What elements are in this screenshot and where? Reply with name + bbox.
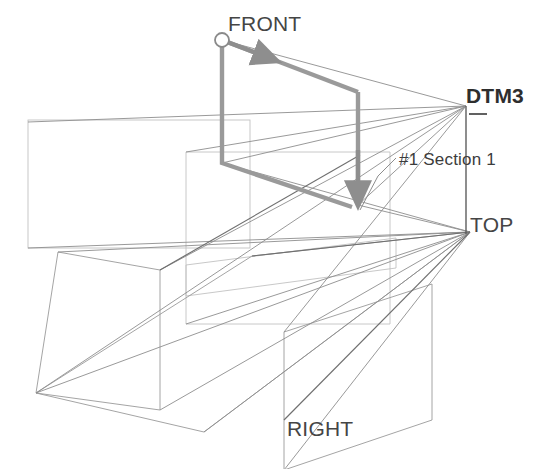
label-front: FRONT <box>228 12 301 36</box>
rays-to-top <box>28 163 470 469</box>
edge-top-to-right-corner <box>284 232 470 420</box>
ray-top-c <box>58 232 470 252</box>
arrow-direction-right <box>222 40 272 59</box>
label-section-callout: #1 Section 1 <box>399 150 496 170</box>
ray-dtm3-a <box>222 40 466 106</box>
front-picture-plane <box>28 120 250 248</box>
faint-construction-planes <box>28 120 396 324</box>
edge-left-diagonal <box>160 155 360 270</box>
rays-to-datum <box>28 40 466 393</box>
ghost-band-plane <box>186 238 396 296</box>
label-datum-dtm3: DTM3 <box>466 84 524 108</box>
label-top: TOP <box>470 213 513 237</box>
ray-top-a <box>28 232 470 248</box>
ray-top-h <box>358 205 470 232</box>
technical-drawing-canvas: FRONT DTM3 TOP RIGHT #1 Section 1 <box>0 0 552 469</box>
ray-top-f <box>186 232 470 324</box>
label-right: RIGHT <box>287 417 353 441</box>
ray-top-e <box>160 232 470 410</box>
ray-dtm3-f <box>284 106 466 332</box>
path-start-marker-icon <box>215 33 229 47</box>
wireframe-planes <box>36 232 470 469</box>
section-leader-line <box>360 158 396 210</box>
